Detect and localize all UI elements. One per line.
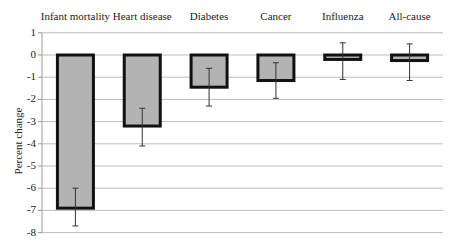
- plot-area: [0, 0, 453, 251]
- bar-infant-mortality: [57, 55, 93, 208]
- bar-chart: Percent change 10-1-2-3-4-5-6-7-8 Infant…: [0, 0, 453, 251]
